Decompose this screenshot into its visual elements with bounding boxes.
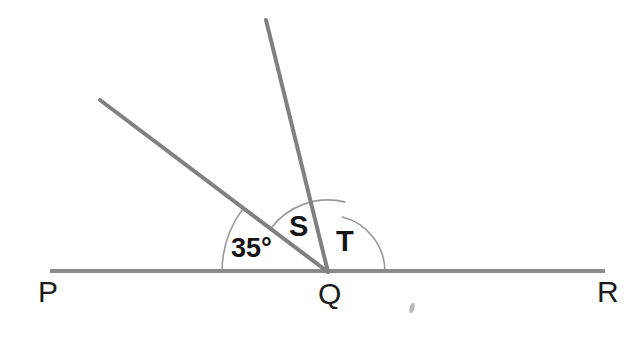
angle-measure-35-label: 35° [231,233,272,263]
point-label-q: Q [318,277,341,310]
angle-region-label-t: T [336,225,354,257]
stray-ink-mark [408,302,415,313]
point-label-p: P [38,275,58,308]
geometry-diagram: P Q R 35° S T [0,0,644,344]
angle-region-label-s: S [289,210,308,242]
geometry-canvas: P Q R 35° S T [0,0,644,344]
point-label-r: R [597,275,619,308]
